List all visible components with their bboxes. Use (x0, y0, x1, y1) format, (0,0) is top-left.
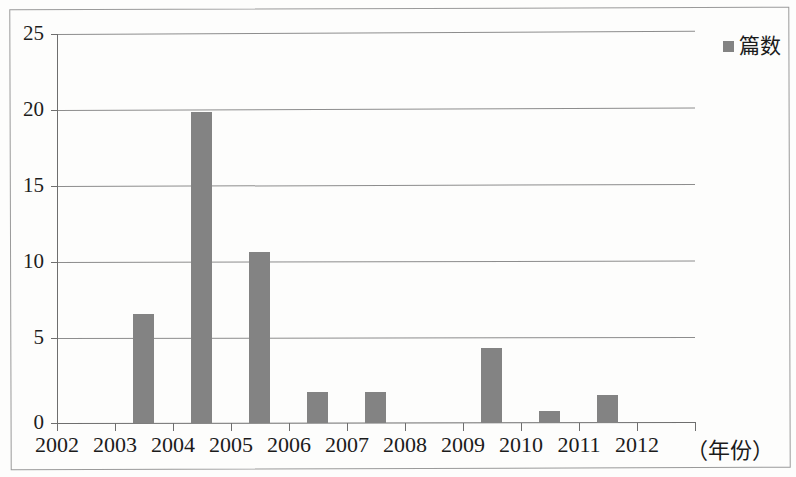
bar-2006[interactable] (307, 392, 328, 423)
y-tick-label-10: 10 (0, 251, 44, 272)
bar-2007[interactable] (365, 392, 386, 423)
x-tick-mark-8 (521, 423, 522, 431)
y-tick-label-25: 25 (0, 23, 44, 44)
chart-page: 25 20 15 10 5 0 (0, 0, 796, 477)
x-tick-label-2002: 2002 (25, 432, 89, 457)
legend-label-pianshu: 篇数 (739, 36, 781, 57)
bar-2010[interactable] (539, 411, 560, 423)
bar-2003[interactable] (133, 314, 154, 423)
y-tick-label-15: 15 (0, 175, 44, 196)
x-tick-label-2005: 2005 (199, 432, 263, 457)
x-tick-mark-2 (173, 423, 174, 431)
y-tick-label-5: 5 (0, 327, 44, 348)
chart-legend: 篇数 (723, 36, 781, 57)
x-tick-mark-7 (463, 423, 464, 431)
bar-chart: 25 20 15 10 5 0 (0, 0, 796, 477)
x-tick-label-2011: 2011 (547, 432, 611, 457)
legend-swatch-icon (723, 41, 734, 52)
x-axis-title: （年份） (686, 432, 774, 464)
bar-series-pianshu (57, 34, 695, 423)
bar-2004[interactable] (191, 112, 212, 423)
x-tick-mark-9 (579, 423, 580, 431)
y-tick-label-20: 20 (0, 99, 44, 120)
x-tick-mark-0 (57, 423, 58, 431)
x-tick-label-2007: 2007 (315, 432, 379, 457)
bar-2009[interactable] (481, 348, 502, 423)
x-tick-mark-5 (347, 423, 348, 431)
x-tick-label-2004: 2004 (141, 432, 205, 457)
x-tick-mark-3 (231, 423, 232, 431)
x-axis-labels: 2002 2003 2004 2005 2006 2007 2008 2009 … (0, 432, 796, 466)
x-tick-label-2006: 2006 (257, 432, 321, 457)
bar-2011[interactable] (597, 395, 618, 423)
x-tick-label-2010: 2010 (489, 432, 553, 457)
y-tick-label-0: 0 (0, 412, 44, 433)
bar-2005[interactable] (249, 252, 270, 423)
x-tick-mark-6 (405, 423, 406, 431)
x-tick-mark-10 (637, 423, 638, 431)
x-tick-label-2009: 2009 (431, 432, 495, 457)
x-tick-mark-1 (115, 423, 116, 431)
x-tick-mark-11 (695, 423, 696, 431)
x-tick-label-2012: 2012 (605, 432, 669, 457)
x-tick-label-2008: 2008 (373, 432, 437, 457)
x-tick-label-2003: 2003 (83, 432, 147, 457)
x-tick-mark-4 (289, 423, 290, 431)
